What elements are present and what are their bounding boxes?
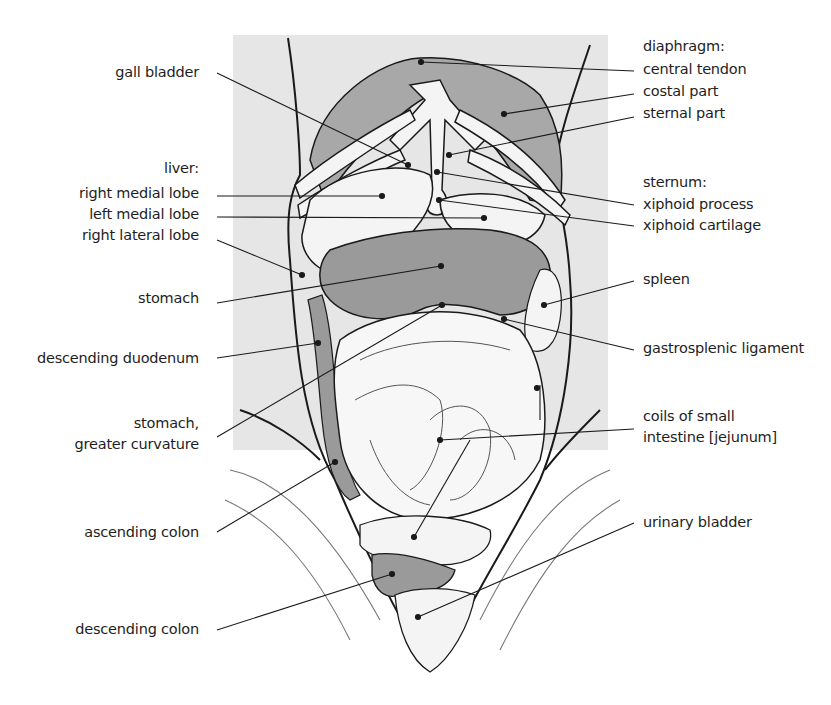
label-stomach-greater-curvature-line1: stomach, bbox=[75, 413, 199, 434]
label-central-tendon: central tendon bbox=[643, 59, 747, 80]
label-left-medial-lobe: left medial lobe bbox=[89, 204, 199, 225]
label-costal-part: costal part bbox=[643, 81, 718, 102]
label-liver-heading: liver: bbox=[164, 158, 199, 179]
label-sternum-heading: sternum: bbox=[643, 172, 707, 193]
label-coils-small-intestine-line1: coils of small bbox=[643, 406, 777, 427]
label-xiphoid-process: xiphoid process bbox=[643, 194, 753, 215]
label-descending-colon: descending colon bbox=[75, 619, 199, 640]
label-ascending-colon: ascending colon bbox=[84, 522, 199, 543]
label-descending-duodenum: descending duodenum bbox=[37, 348, 199, 369]
label-coils-small-intestine-line2: intestine [jejunum] bbox=[643, 427, 777, 448]
label-stomach-greater-curvature: stomach, greater curvature bbox=[75, 413, 199, 455]
label-gastrosplenic-ligament: gastrosplenic ligament bbox=[643, 338, 804, 359]
label-stomach-greater-curvature-line2: greater curvature bbox=[75, 434, 199, 455]
urinary-bladder-shape bbox=[395, 589, 475, 672]
label-right-lateral-lobe: right lateral lobe bbox=[82, 225, 199, 246]
label-gall-bladder: gall bladder bbox=[115, 62, 199, 83]
label-xiphoid-cartilage: xiphoid cartilage bbox=[643, 215, 761, 236]
label-spleen: spleen bbox=[643, 269, 690, 290]
label-coils-small-intestine: coils of small intestine [jejunum] bbox=[643, 406, 777, 448]
label-diaphragm-heading: diaphragm: bbox=[643, 36, 725, 57]
label-sternal-part: sternal part bbox=[643, 103, 725, 124]
label-right-medial-lobe: right medial lobe bbox=[79, 183, 199, 204]
label-urinary-bladder: urinary bladder bbox=[643, 512, 752, 533]
label-stomach: stomach bbox=[138, 288, 199, 309]
small-intestine-shape bbox=[334, 312, 545, 520]
stomach-shape bbox=[320, 229, 551, 319]
